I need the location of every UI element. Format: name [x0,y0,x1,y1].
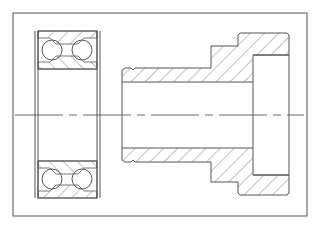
drawing-canvas [0,0,319,231]
ball-icon [42,40,62,60]
bushing-top-half [122,33,289,82]
ball-icon [42,169,62,189]
bushing-bottom-half [122,148,289,195]
ball-icon [72,40,92,60]
ball-icon [72,169,92,189]
bushing-section [122,33,289,195]
bearing-section [35,31,100,198]
bearing-bottom-row [38,161,97,198]
bearing-top-row [38,31,97,69]
